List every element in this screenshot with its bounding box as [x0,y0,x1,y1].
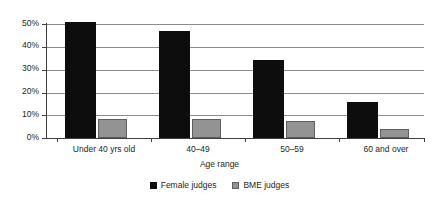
grey-square-swatch-icon [232,182,239,189]
gridline-baseline-0 [47,138,424,139]
bar-bme-40-49 [192,119,221,138]
x-axis-tick-4 [424,138,425,142]
x-axis-title: Age range [0,159,439,169]
y-axis-labels: 50% 40% 30% 20% 10% 0% [0,0,39,209]
bar-bme-50-59 [286,121,315,138]
x-axis-tick-0 [57,138,58,142]
x-axis-category-50-59: 50–59 [245,144,339,154]
y-axis-label-30: 30% [5,64,39,73]
bar-group-50-59 [245,24,339,138]
x-axis-tick-2 [245,138,246,142]
x-axis-tick-1 [151,138,152,142]
bar-female-40-49 [159,31,190,138]
bar-female-50-59 [253,60,284,138]
bar-chart: 50% 40% 30% 20% 10% 0% [0,0,439,209]
y-axis-label-40: 40% [5,41,39,50]
chart-legend: Female judges BME judges [0,180,439,190]
bar-female-60-and-over [347,102,378,138]
bar-bme-under-40 [98,119,127,138]
bar-group-60-and-over [339,24,433,138]
plot-area [47,24,424,138]
legend-label-bme-judges: BME judges [243,180,289,190]
x-axis-category-under-40: Under 40 yrs old [57,144,151,154]
x-axis-category-60-over: 60 and over [339,144,433,154]
x-axis-category-40-49: 40–49 [151,144,245,154]
y-axis-label-50: 50% [5,19,39,28]
bar-group-40-49 [151,24,245,138]
y-axis-label-10: 10% [5,110,39,119]
y-axis-label-20: 20% [5,87,39,96]
legend-label-female-judges: Female judges [161,180,217,190]
black-square-swatch-icon [150,182,157,189]
y-axis-label-0: 0% [5,133,39,142]
x-axis-tick-3 [339,138,340,142]
bar-bme-60-and-over [380,129,409,138]
bar-female-under-40 [65,22,96,138]
bar-group-under-40 [57,24,151,138]
legend-item-female-judges: Female judges [150,180,217,190]
legend-item-bme-judges: BME judges [232,180,289,190]
